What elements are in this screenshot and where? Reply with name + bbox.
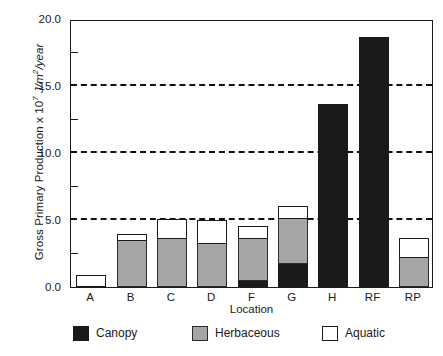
x-tick-label-G: G [287,290,296,304]
legend-swatch-herbaceous [192,326,208,341]
bar-segment-RP-aquatic [399,238,429,258]
bar-G [278,207,308,287]
y-tick-mark [71,52,78,53]
x-tick-label-B: B [127,290,135,304]
bar-segment-C-aquatic [157,219,187,239]
bar-segment-D-herbaceous [197,243,227,287]
legend-item-herbaceous: Herbaceous [192,326,280,341]
y-tick-mark [71,186,78,187]
bar-segment-G-herbaceous [278,218,308,265]
bar-A [76,276,106,287]
x-tick-label-C: C [167,290,175,304]
x-axis-title: Location [70,303,433,315]
x-tick-label-RF: RF [365,290,380,304]
x-tick-label-H: H [328,290,336,304]
y-tick-label-20-0: 20.0 [39,14,61,26]
bar-B [117,235,147,287]
bar-segment-H-canopy [318,104,348,287]
x-tick-label-D: D [207,290,215,304]
x-tick-label-RP: RP [405,290,421,304]
bar-segment-RF-canopy [359,37,389,287]
y-tick-mark [71,253,78,254]
legend-label-herbaceous: Herbaceous [215,326,280,341]
bar-segment-G-aquatic [278,206,308,219]
y-axis-tick-labels: 0.05.010.015.020.0 [0,20,66,288]
legend-label-canopy: Canopy [96,326,137,341]
bar-RF [359,38,389,287]
legend-swatch-aquatic [322,326,338,341]
bar-segment-RP-herbaceous [399,257,429,287]
bar-segment-C-herbaceous [157,238,187,287]
bar-segment-F-aquatic [238,226,268,240]
legend-swatch-canopy [73,326,89,341]
legend-item-canopy: Canopy [73,326,137,341]
legend-item-aquatic: Aquatic [322,326,385,341]
x-tick-label-A: A [86,290,94,304]
y-tick-mark [71,119,78,120]
bar-segment-B-herbaceous [117,240,147,287]
y-tick-label-5-0: 5.0 [45,215,61,227]
y-tick-label-0-0: 0.0 [45,282,61,294]
plot-area [70,20,433,288]
y-tick-label-15-0: 15.0 [39,81,61,93]
bar-D [197,221,227,287]
bar-segment-D-aquatic [197,220,227,244]
bar-C [157,220,187,287]
y-tick-label-10-0: 10.0 [39,148,61,160]
bar-segment-A-aquatic [76,275,106,287]
x-tick-label-F: F [248,290,255,304]
bar-segment-F-canopy [238,280,268,287]
bar-RP [399,239,429,287]
chart-figure: Gross Primary Production x 107 J/m2/year… [0,0,443,356]
bar-segment-B-aquatic [117,234,147,240]
chart-legend: CanopyHerbaceousAquatic [70,326,430,348]
legend-label-aquatic: Aquatic [345,326,385,341]
bar-segment-G-canopy [278,263,308,287]
bar-segment-F-herbaceous [238,238,268,281]
bar-F [238,227,268,287]
bar-H [318,105,348,287]
